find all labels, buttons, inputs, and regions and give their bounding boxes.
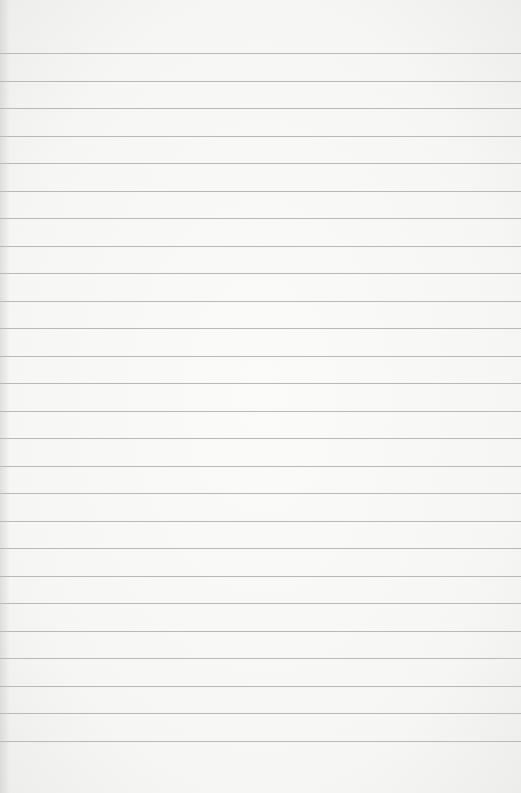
lined-paper xyxy=(0,0,521,793)
ruled-line xyxy=(0,741,521,742)
ruled-line xyxy=(0,521,521,522)
ruled-line xyxy=(0,163,521,164)
ruled-line xyxy=(0,273,521,274)
ruled-line xyxy=(0,191,521,192)
ruled-line xyxy=(0,548,521,549)
ruled-line xyxy=(0,356,521,357)
ruled-line xyxy=(0,438,521,439)
ruled-line xyxy=(0,576,521,577)
ruled-line xyxy=(0,493,521,494)
ruled-line xyxy=(0,411,521,412)
ruled-line xyxy=(0,603,521,604)
ruled-line xyxy=(0,53,521,54)
ruled-line xyxy=(0,631,521,632)
ruled-line xyxy=(0,81,521,82)
paper-edge-shadow xyxy=(0,0,10,793)
ruled-line xyxy=(0,301,521,302)
ruled-line xyxy=(0,218,521,219)
ruled-line xyxy=(0,713,521,714)
ruled-line xyxy=(0,136,521,137)
ruled-line xyxy=(0,246,521,247)
ruled-line xyxy=(0,686,521,687)
ruled-line xyxy=(0,466,521,467)
ruled-line xyxy=(0,658,521,659)
ruled-line xyxy=(0,328,521,329)
ruled-line xyxy=(0,383,521,384)
ruled-line xyxy=(0,108,521,109)
